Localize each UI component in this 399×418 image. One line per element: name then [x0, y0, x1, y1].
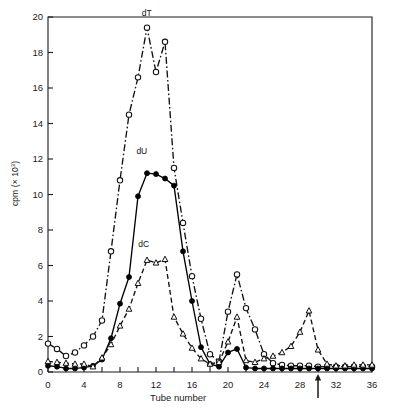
y-tick-label: 4	[21, 295, 43, 306]
x-tick-label: 36	[362, 379, 382, 390]
y-axis-label: cpm (× 103)	[10, 138, 21, 228]
y-tick-label: 6	[21, 260, 43, 271]
x-tick-label: 12	[146, 379, 166, 390]
y-tick-label: 2	[21, 331, 43, 342]
y-tick-label: 0	[21, 366, 43, 377]
axes-frame	[48, 17, 372, 372]
chart-plot-area	[0, 0, 399, 418]
series-dT	[45, 25, 374, 369]
series-label-dC: dC	[138, 239, 149, 249]
x-tick-label: 32	[326, 379, 346, 390]
series-lines	[45, 25, 375, 371]
x-tick-label: 8	[110, 379, 130, 390]
figure-container: cpm (× 103) Tube number 0246810121416182…	[0, 0, 399, 418]
x-axis-label: Tube number	[150, 392, 206, 403]
x-tick-label: 28	[290, 379, 310, 390]
y-tick-label: 8	[21, 224, 43, 235]
x-axis-arrow-marker	[315, 374, 321, 398]
y-tick-label: 16	[21, 82, 43, 93]
x-tick-label: 24	[254, 379, 274, 390]
series-dU	[46, 171, 375, 371]
y-tick-label: 20	[21, 11, 43, 22]
x-tick-label: 20	[218, 379, 238, 390]
axis-ticks	[48, 17, 372, 372]
y-tick-label: 14	[21, 118, 43, 129]
x-tick-label: 4	[74, 379, 94, 390]
series-label-dU: dU	[136, 146, 147, 156]
y-tick-label: 12	[21, 153, 43, 164]
x-tick-label: 0	[38, 379, 58, 390]
y-tick-label: 18	[21, 47, 43, 58]
y-tick-label: 10	[21, 189, 43, 200]
x-tick-label: 16	[182, 379, 202, 390]
series-label-dT: dT	[142, 8, 152, 18]
axis-markers	[315, 374, 321, 398]
